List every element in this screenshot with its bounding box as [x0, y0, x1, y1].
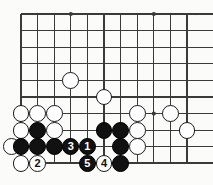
white-stone — [13, 155, 30, 172]
black-stone — [112, 155, 129, 172]
white-stone: 2 — [29, 155, 46, 172]
move-number-label: 3 — [68, 141, 74, 152]
black-stone — [46, 138, 63, 155]
black-stone: 5 — [79, 155, 96, 172]
move-number-label: 5 — [84, 157, 90, 168]
move-number-label: 2 — [35, 157, 41, 168]
move-number-label: 4 — [101, 157, 107, 168]
stone-layer: 31254 — [0, 0, 213, 185]
white-stone — [96, 89, 113, 106]
black-stone — [96, 122, 113, 139]
white-stone — [46, 105, 63, 122]
white-stone — [13, 105, 30, 122]
white-stone — [129, 105, 146, 122]
go-board-diagram: 31254 — [0, 0, 213, 185]
white-stone — [46, 122, 63, 139]
black-stone — [13, 138, 30, 155]
white-stone — [13, 122, 30, 139]
white-stone — [129, 122, 146, 139]
white-stone — [62, 72, 79, 89]
white-stone — [179, 122, 196, 139]
black-stone: 1 — [79, 138, 96, 155]
white-stone — [129, 138, 146, 155]
white-stone — [162, 105, 179, 122]
black-stone — [112, 138, 129, 155]
black-stone — [29, 138, 46, 155]
white-stone: 4 — [96, 155, 113, 172]
move-number-label: 1 — [84, 141, 90, 152]
white-stone — [29, 105, 46, 122]
black-stone — [29, 122, 46, 139]
black-stone: 3 — [62, 138, 79, 155]
black-stone — [112, 122, 129, 139]
